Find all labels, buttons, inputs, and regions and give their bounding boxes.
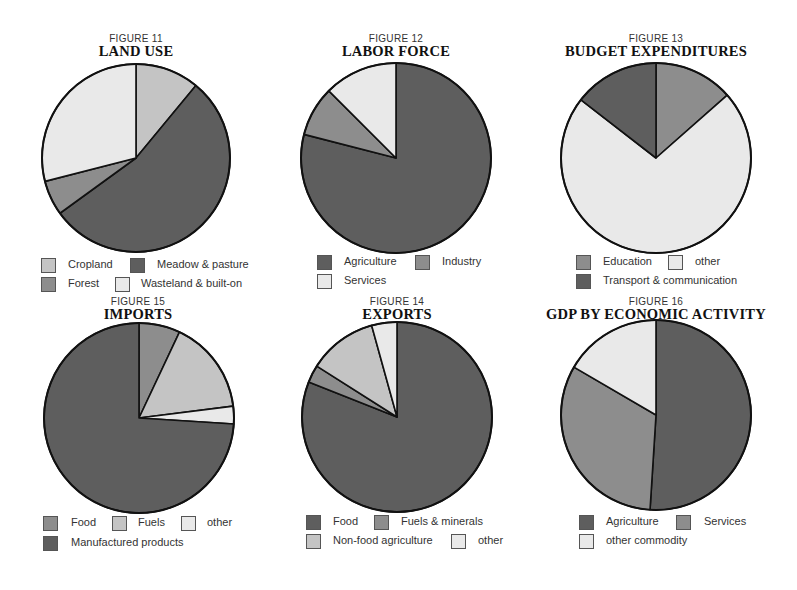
pie-chart	[6, 0, 266, 295]
legend-label: Fuels & minerals	[401, 515, 483, 527]
figure-labor-force: FIGURE 12 LABOR FORCE Agriculture Indust…	[266, 0, 526, 295]
legend-item-other-commodity: other commodity	[579, 533, 594, 549]
legend-label: Agriculture	[606, 515, 659, 527]
pie-chart	[266, 0, 526, 295]
legend-item-other: other	[451, 533, 466, 549]
legend-item-fuels-minerals: Fuels & minerals	[374, 514, 389, 530]
legend-swatch	[181, 516, 196, 531]
legend-swatch	[579, 515, 594, 530]
legend-item-fuels: Fuels	[112, 515, 127, 531]
legend-item-manufactured-products: Manufactured products	[43, 535, 58, 551]
legend-swatch	[451, 534, 466, 549]
legend-label: Services	[704, 515, 746, 527]
legend-swatch	[112, 516, 127, 531]
figure-gdp-by-economic-activity: FIGURE 16 GDP BY ECONOMIC ACTIVITY Agric…	[526, 262, 786, 562]
legend-label: Non-food agriculture	[333, 534, 433, 546]
legend-item-services: Services	[676, 514, 691, 530]
figure-imports: FIGURE 15 IMPORTS Food Fuels other Manuf…	[8, 262, 268, 562]
legend-label: other	[478, 534, 503, 546]
legend-swatch	[676, 515, 691, 530]
legend-label: Manufactured products	[71, 536, 184, 548]
legend-item-non-food-agriculture: Non-food agriculture	[306, 533, 321, 549]
pie-chart	[526, 0, 786, 295]
figure-exports: FIGURE 14 EXPORTS Food Fuels & minerals …	[267, 262, 527, 562]
figure-land-use: FIGURE 11 LAND USE Cropland Meadow & pas…	[6, 0, 266, 295]
legend-swatch	[579, 534, 594, 549]
legend-item-food: Food	[43, 515, 58, 531]
legend-swatch	[306, 515, 321, 530]
legend-label: other commodity	[606, 534, 687, 546]
legend-label: other	[207, 516, 232, 528]
pie-slice-agriculture	[650, 320, 751, 510]
legend-swatch	[374, 515, 389, 530]
legend-item-agriculture: Agriculture	[579, 514, 594, 530]
legend-label: Fuels	[138, 516, 165, 528]
legend-item-other: other	[181, 515, 196, 531]
legend-swatch	[43, 516, 58, 531]
legend-label: Food	[71, 516, 96, 528]
figure-budget-expenditures: FIGURE 13 BUDGET EXPENDITURES Education …	[526, 0, 786, 295]
legend-item-food: Food	[306, 514, 321, 530]
legend-swatch	[43, 536, 58, 551]
legend-swatch	[306, 534, 321, 549]
legend-label: Food	[333, 515, 358, 527]
